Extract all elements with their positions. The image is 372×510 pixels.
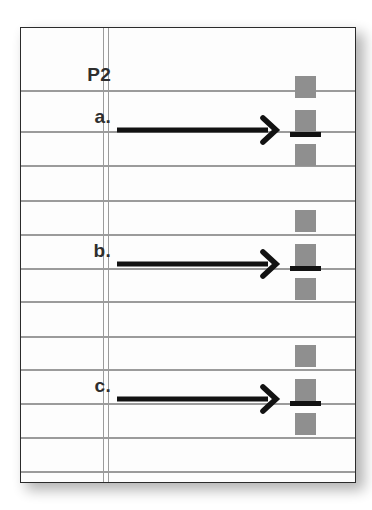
gray-square (295, 76, 316, 98)
arrow-head (263, 387, 276, 411)
ruled-line (21, 471, 355, 473)
gray-square (295, 110, 316, 132)
ruled-line (21, 369, 355, 371)
problem-label-a: a. (95, 106, 111, 128)
ruled-line (21, 336, 355, 338)
ruled-line (21, 301, 355, 303)
gray-square (295, 345, 316, 367)
right-arrow-c (116, 382, 282, 416)
gray-square (295, 413, 316, 435)
arrow-head (263, 252, 276, 276)
gray-square (295, 379, 316, 401)
problem-label-b: b. (94, 240, 112, 262)
gray-square (295, 244, 316, 266)
worksheet-screenshot: P2a.b.c. (0, 0, 372, 510)
black-divider-bar (290, 266, 321, 271)
arrow-head (263, 118, 276, 142)
ruled-line (21, 200, 355, 202)
gray-square (295, 144, 316, 166)
ruled-line (21, 437, 355, 439)
worksheet-paper: P2a.b.c. (20, 27, 356, 483)
right-arrow-b (116, 247, 282, 281)
gray-square (295, 278, 316, 300)
black-divider-bar (290, 132, 321, 137)
gray-square (295, 210, 316, 232)
ruled-line (21, 234, 355, 236)
black-divider-bar (290, 401, 321, 406)
right-arrow-a (116, 113, 282, 147)
problem-label-c: c. (95, 375, 111, 397)
page-header-label: P2 (87, 64, 111, 86)
